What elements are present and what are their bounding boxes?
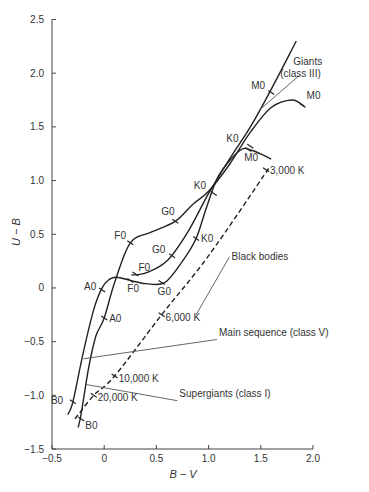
- tick-mark: [300, 103, 306, 107]
- tick-mark: [159, 313, 165, 317]
- supergiants-class-i-marker-label: K0: [226, 133, 239, 144]
- x-axis-title: B − V: [169, 468, 198, 480]
- annotation-label: (class III): [280, 68, 321, 79]
- y-tick-label: −1.0: [24, 390, 44, 401]
- tick-mark: [247, 144, 253, 148]
- ub-bv-color-color-diagram: −0.500.51.01.52.02.52.01.51.00.50−0.5−1.…: [0, 0, 369, 492]
- y-tick-label: 1.5: [30, 121, 44, 132]
- main-sequence-class-v-marker-label: B0: [51, 395, 64, 406]
- main-sequence-class-v-marker-label: F0: [127, 283, 139, 294]
- supergiants-class-i-marker-label: M0: [307, 90, 321, 101]
- black-bodies-marker-label: 10,000 K: [119, 373, 159, 384]
- curves: [68, 41, 306, 428]
- y-tick-label: 1.0: [30, 175, 44, 186]
- black-bodies-marker-label: 3,000 K: [270, 165, 305, 176]
- supergiants-class-i-curve: [78, 100, 305, 428]
- leader-line: [83, 339, 217, 358]
- main-sequence-class-v-marker-label: A0: [84, 281, 97, 292]
- x-tick-label: 2.0: [306, 453, 320, 464]
- y-tick-label: 2.0: [30, 68, 44, 79]
- supergiants-class-i-marker-label: G0: [161, 206, 175, 217]
- annotation-label: Black bodies: [232, 251, 289, 262]
- annotation-label: Supergiants (class I): [179, 388, 270, 399]
- y-axis-title: U − B: [10, 218, 22, 246]
- y-tick-label: −1.5: [24, 444, 44, 455]
- giants-class-iii-marker-label: G0: [152, 244, 166, 255]
- main-sequence-class-v-marker-label: G0: [158, 286, 172, 297]
- main-sequence-class-v-curve: [68, 148, 272, 414]
- y-tick-label: −0.5: [24, 336, 44, 347]
- x-tick-label: 1.5: [254, 453, 268, 464]
- main-sequence-class-v-marker-label: M0: [244, 152, 258, 163]
- x-tick-label: 0.5: [149, 453, 163, 464]
- black-bodies-marker-label: 6,000 K: [166, 312, 201, 323]
- giants-class-iii-marker-label: F0: [139, 262, 151, 273]
- y-tick-label: 2.5: [30, 14, 44, 25]
- annotation-label: Main sequence (class V): [219, 327, 328, 338]
- giants-class-iii-marker-label: M0: [251, 80, 265, 91]
- tick-mark: [127, 241, 133, 245]
- leader-line: [260, 75, 300, 109]
- supergiants-class-i-marker-label: B0: [85, 420, 98, 431]
- annotation-label: Giants: [293, 56, 322, 67]
- x-tick-label: 1.0: [202, 453, 216, 464]
- supergiants-class-i-marker-label: F0: [114, 230, 126, 241]
- y-tick-label: 0.5: [30, 229, 44, 240]
- supergiants-class-i-marker-label: A0: [109, 313, 122, 324]
- giants-class-iii-curve: [131, 41, 296, 275]
- main-sequence-class-v-marker-label: K0: [201, 233, 214, 244]
- labels: B0A0F0G0K0M0B0A0F0G0K0M0F0G0K0M020,000 K…: [51, 56, 329, 431]
- tick-mark: [78, 417, 84, 421]
- y-tick-label: 0: [38, 282, 44, 293]
- giants-class-iii-marker-label: K0: [194, 180, 207, 191]
- x-tick-label: 0: [101, 453, 107, 464]
- black-bodies-marker-label: 20,000 K: [98, 392, 138, 403]
- x-tick-label: −0.5: [42, 453, 62, 464]
- leader-line: [196, 257, 229, 315]
